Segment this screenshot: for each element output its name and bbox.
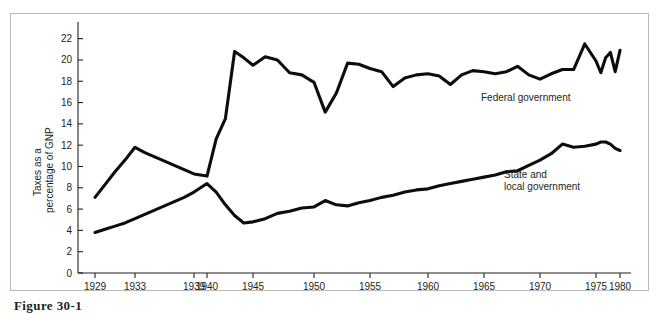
x-tick-label: 1970: [529, 281, 552, 292]
y-tick-label: 16: [61, 97, 73, 108]
x-tick-label: 1960: [417, 281, 440, 292]
federal-annotation-label: Federal government: [481, 92, 571, 103]
y-axis-ticks: 0246810121416182022: [61, 33, 83, 278]
x-tick-label: 1950: [303, 281, 326, 292]
x-tick-label: 1965: [473, 281, 496, 292]
y-tick-label: 20: [61, 54, 73, 65]
y-axis-title-line1: Taxes as a: [32, 148, 43, 196]
y-tick-label: 6: [66, 204, 72, 215]
x-tick-label: 1929: [84, 281, 107, 292]
x-tick-label: 1945: [242, 281, 265, 292]
x-tick-label: 1955: [359, 281, 382, 292]
figure-caption: Figure 30-1: [14, 298, 82, 314]
y-tick-label: 22: [61, 33, 73, 44]
x-tick-label: 1940: [196, 281, 219, 292]
series-annotation-federal: Federal government: [481, 92, 571, 103]
y-tick-label: 2: [66, 246, 72, 257]
x-tick-label: 1933: [124, 281, 147, 292]
chart-series: [95, 44, 620, 233]
y-tick-label: 14: [61, 118, 73, 129]
x-tick-label: 1980: [609, 281, 632, 292]
y-tick-label: 0: [66, 268, 72, 279]
state-annotation-label-line2: local government: [504, 181, 580, 192]
y-tick-label: 12: [61, 140, 73, 151]
y-axis-title: Taxes as a percentage of GNP: [32, 127, 55, 213]
y-axis-title-line2: percentage of GNP: [44, 127, 55, 213]
y-tick-label: 4: [66, 225, 72, 236]
x-tick-label: 1975: [585, 281, 608, 292]
y-tick-label: 10: [61, 161, 73, 172]
chart-axes: [78, 22, 631, 273]
y-tick-label: 8: [66, 182, 72, 193]
state-annotation-label-line1: State and: [504, 169, 547, 180]
x-axis-ticks: 1929193319391940194519501955196019651970…: [84, 273, 632, 292]
y-tick-label: 18: [61, 76, 73, 87]
series-annotation-state-local: State and local government: [504, 169, 580, 192]
